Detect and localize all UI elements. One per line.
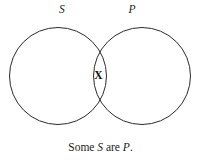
label-circle-s: S [54,4,70,16]
intersection-x-marker: X [90,70,107,82]
caption-text-1: Some [68,141,97,153]
circle-p [94,28,191,125]
caption-text-3: . [130,141,133,153]
figure-caption: Some S are P. [0,141,201,154]
caption-variable-p: P [123,141,130,153]
caption-text-2: are [103,141,123,153]
label-circle-p: P [124,4,140,16]
venn-diagram-figure: S P X Some S are P. [0,0,201,160]
